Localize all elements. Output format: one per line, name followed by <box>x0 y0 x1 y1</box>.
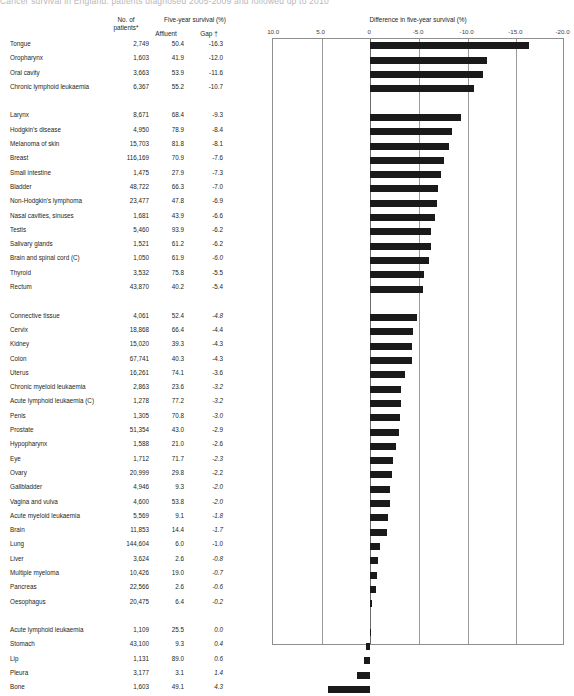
table-row: Pancreas22,5662.6-0.6 <box>0 581 272 595</box>
cell-affluent: 77.2 <box>150 397 184 404</box>
cell-affluent: 41.9 <box>150 54 184 61</box>
cell-no-of-patients: 43,870 <box>103 283 149 290</box>
table-row: Small intestine1,47527.9-7.3 <box>0 167 272 181</box>
chart-bar <box>370 314 417 321</box>
cell-site: Testis <box>10 226 26 233</box>
cell-gap: -4.3 <box>190 355 223 362</box>
column-header-gap: Gap † <box>193 30 225 37</box>
cell-no-of-patients: 10,426 <box>103 569 149 576</box>
cell-affluent: 61.2 <box>150 240 184 247</box>
cell-no-of-patients: 20,475 <box>103 598 149 605</box>
cell-affluent: 68.4 <box>150 111 184 118</box>
table-row: Kidney15,02039.3-4.3 <box>0 338 272 352</box>
table-row: Multiple myeloma10,42619.0-0.7 <box>0 567 272 581</box>
chart-bar <box>370 429 398 436</box>
chart-bar <box>370 400 401 407</box>
chart-bar <box>370 600 372 607</box>
cell-no-of-patients: 18,868 <box>103 326 149 333</box>
table-row: Prostate51,35443.0-2.9 <box>0 424 272 438</box>
cell-gap: -3.0 <box>190 412 223 419</box>
cell-affluent: 6.4 <box>150 598 184 605</box>
cell-gap: -6.0 <box>190 254 223 261</box>
group-spacer-row <box>0 295 272 309</box>
chart-bar <box>370 200 437 207</box>
table-row: Oropharynx1,60341.9-12.0 <box>0 52 272 66</box>
cell-site: Oral cavity <box>10 69 40 76</box>
clipped-page-header-text: Cancer survival in England: patients dia… <box>0 0 329 6</box>
cell-no-of-patients: 48,722 <box>103 183 149 190</box>
cell-site: Connective tissue <box>10 312 60 319</box>
chart-bar <box>370 157 444 164</box>
cell-affluent: 14.4 <box>150 526 184 533</box>
cell-site: Acute myeloid leukaemia <box>10 512 80 519</box>
cell-no-of-patients: 1,588 <box>103 440 149 447</box>
column-header-no-of-patients-line1: No. of <box>103 16 149 24</box>
table-row: Salivary glands1,52161.2-6.2 <box>0 238 272 252</box>
chart-bar <box>370 514 388 521</box>
cell-affluent: 70.8 <box>150 412 184 419</box>
cell-no-of-patients: 6,367 <box>103 83 149 90</box>
table-row: Vagina and vulva4,60053.8-2.0 <box>0 496 272 510</box>
chart-bar <box>370 386 401 393</box>
chart-bar <box>370 143 449 150</box>
cell-gap: -8.1 <box>190 140 223 147</box>
cell-gap: -2.0 <box>190 498 223 505</box>
cell-affluent: 52.4 <box>150 312 184 319</box>
cell-no-of-patients: 67,741 <box>103 355 149 362</box>
cell-no-of-patients: 15,020 <box>103 340 149 347</box>
cell-site: Small intestine <box>10 169 51 176</box>
chart-bar <box>370 586 376 593</box>
cell-site: Acute lymphoid leukaemia <box>10 626 84 633</box>
column-header-no-of-patients-line2: patients* <box>103 24 149 32</box>
cell-affluent: 78.9 <box>150 126 184 133</box>
cell-gap: -3.2 <box>190 383 223 390</box>
cell-gap: -2.6 <box>190 440 223 447</box>
cell-gap: -4.3 <box>190 340 223 347</box>
cell-affluent: 71.7 <box>150 455 184 462</box>
cell-affluent: 29.8 <box>150 469 184 476</box>
table-row: Nasal cavities, sinuses1,68143.9-6.6 <box>0 210 272 224</box>
cell-gap: -6.6 <box>190 212 223 219</box>
column-header-five-year-survival: Five-year survival (%) <box>150 16 240 23</box>
cell-site: Oesophagus <box>10 598 46 605</box>
chart-bar <box>370 414 399 421</box>
table-row: Testis5,46093.9-6.2 <box>0 224 272 238</box>
cell-site: Penis <box>10 412 26 419</box>
cell-site: Thyroid <box>10 269 31 276</box>
chart-bar <box>370 271 424 278</box>
cell-no-of-patients: 1,603 <box>103 54 149 61</box>
table-row: Gallbladder4,9469.3-2.0 <box>0 481 272 495</box>
cell-gap: -0.7 <box>190 569 223 576</box>
clipped-page-header: Cancer survival in England: patients dia… <box>0 0 574 11</box>
chart-bar <box>370 500 389 507</box>
cell-gap: -5.5 <box>190 269 223 276</box>
cell-affluent: 50.4 <box>150 40 184 47</box>
cell-affluent: 40.2 <box>150 283 184 290</box>
cell-no-of-patients: 5,460 <box>103 226 149 233</box>
table-row: Penis1,30570.8-3.0 <box>0 410 272 424</box>
chart-bar <box>370 572 377 579</box>
cell-affluent: 25.5 <box>150 626 184 633</box>
cell-no-of-patients: 8,671 <box>103 111 149 118</box>
cell-no-of-patients: 1,305 <box>103 412 149 419</box>
cell-affluent: 19.0 <box>150 569 184 576</box>
table-row: Rectum43,87040.2-5.4 <box>0 281 272 295</box>
cell-no-of-patients: 1,131 <box>103 655 149 662</box>
chart-bar <box>370 286 423 293</box>
chart-bar <box>370 71 483 78</box>
chart-bar <box>370 228 430 235</box>
chart-bar <box>370 557 378 564</box>
cell-no-of-patients: 1,712 <box>103 455 149 462</box>
cell-gap: -10.7 <box>190 83 223 90</box>
cell-no-of-patients: 3,177 <box>103 669 149 676</box>
gridline <box>322 39 323 644</box>
chart-plot-area <box>272 38 564 645</box>
chart-bar <box>370 357 412 364</box>
chart-x-axis-labels: 10.05.00-5.0-10.0-15.0-20.0 <box>272 28 564 37</box>
x-axis-tick-label: 0 <box>368 28 371 35</box>
chart-title: Difference in five-year survival (%) <box>272 16 564 23</box>
table-row: Acute myeloid leukaemia5,5699.1-1.8 <box>0 510 272 524</box>
chart-bar <box>370 114 461 121</box>
column-header-no-of-patients: No. of patients* <box>103 16 149 32</box>
table-row: Acute lymphoid leukaemia1,10925.50.0 <box>0 624 272 638</box>
